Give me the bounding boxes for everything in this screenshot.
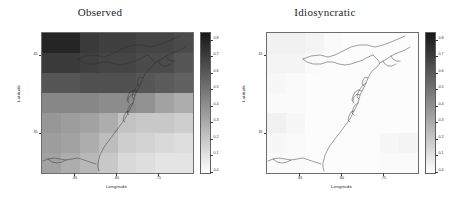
colorbar-tick-label: 0.2 (439, 136, 444, 140)
tick-mark (210, 172, 213, 173)
tick-mark (435, 40, 438, 41)
x-axis-tick-label: -80 (111, 177, 123, 181)
tick-mark (435, 139, 438, 140)
y-axis-label-observed: Latitude (16, 85, 21, 102)
map-plot-idiosyncratic (266, 32, 419, 174)
colorbar-ticks-idiosyncratic: 0.80.70.60.50.40.30.20.10.0 (435, 32, 449, 172)
tick-mark (39, 133, 42, 134)
x-axis-tick-label: -85 (69, 177, 81, 181)
colorbar-tick-label: 0.7 (214, 53, 219, 57)
map-plot-observed (41, 32, 194, 174)
panel-idiosyncratic: Idiosyncratic (225, 0, 449, 207)
colorbar-tick-label: 0.1 (214, 152, 219, 156)
tick-mark (435, 155, 438, 156)
tick-mark (435, 56, 438, 57)
panel-observed: Observed (0, 0, 224, 207)
y-axis-tick-label: 35 (259, 131, 263, 135)
tick-mark (264, 133, 267, 134)
colorbar-tick-label: 0.5 (439, 86, 444, 90)
colorbar-gradient (201, 33, 210, 173)
tick-mark (435, 172, 438, 173)
tick-mark (264, 55, 267, 56)
tick-mark (210, 106, 213, 107)
x-axis-tick-label: -75 (377, 177, 389, 181)
colorbar-tick-label: 0.7 (439, 53, 444, 57)
colorbar-tick-label: 0.4 (439, 103, 444, 107)
tick-mark (435, 89, 438, 90)
y-axis-label-idiosyncratic: Latitude (241, 85, 246, 102)
colorbar-tick-label: 0.5 (214, 86, 219, 90)
colorbar-tick-label: 0.3 (214, 119, 219, 123)
x-axis-tick-label: -75 (152, 177, 164, 181)
tick-mark (435, 106, 438, 107)
x-axis-label-idiosyncratic: Longitude (266, 184, 417, 189)
colorbar-tick-label: 0.0 (439, 169, 444, 173)
panel-title-observed: Observed (0, 6, 200, 18)
figure-two-panel-maps: Observed (0, 0, 449, 207)
y-axis-tick-label: 45 (259, 53, 263, 57)
tick-mark (210, 89, 213, 90)
colorbar-tick-label: 0.1 (439, 152, 444, 156)
tick-mark (210, 73, 213, 74)
tick-mark (210, 122, 213, 123)
tick-mark (39, 55, 42, 56)
y-axis-tick-label: 35 (34, 131, 38, 135)
coastline-overlay-icon (42, 33, 193, 173)
colorbar-tick-label: 0.6 (439, 70, 444, 74)
tick-mark (210, 155, 213, 156)
x-axis-tick-label: -80 (336, 177, 348, 181)
colorbar-gradient (426, 33, 435, 173)
panel-title-idiosyncratic: Idiosyncratic (225, 6, 425, 18)
colorbar-tick-label: 0.8 (214, 37, 219, 41)
tick-mark (435, 122, 438, 123)
colorbar-tick-label: 0.8 (439, 37, 444, 41)
x-axis-tick-label: -85 (294, 177, 306, 181)
colorbar-tick-label: 0.3 (439, 119, 444, 123)
tick-mark (210, 40, 213, 41)
tick-mark (210, 56, 213, 57)
colorbar-tick-label: 0.6 (214, 70, 219, 74)
tick-mark (435, 73, 438, 74)
colorbar-tick-label: 0.2 (214, 136, 219, 140)
tick-mark (210, 139, 213, 140)
y-axis-tick-label: 45 (34, 53, 38, 57)
coastline-overlay-icon (267, 33, 418, 173)
colorbar-tick-label: 0.4 (214, 103, 219, 107)
colorbar-tick-label: 0.0 (214, 169, 219, 173)
x-axis-label-observed: Longitude (41, 184, 192, 189)
